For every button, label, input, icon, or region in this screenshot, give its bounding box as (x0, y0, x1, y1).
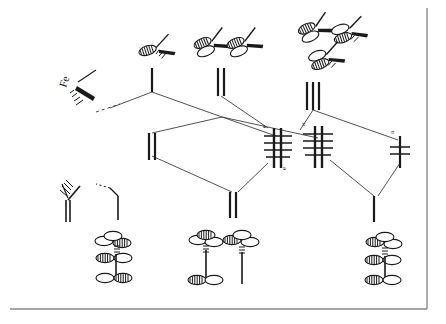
mo-diagram-svg: e e a a Fe (0, 0, 446, 324)
orbital-cartoon-top-left (136, 34, 176, 66)
level-left-lower-double[interactable] (149, 133, 155, 160)
metal-label-fe: Fe (56, 74, 71, 88)
orbital-cartoon-top-mid-a (192, 27, 232, 60)
fragment-metal-fe: Fe (56, 70, 96, 105)
orbital-cartoon-top-mid-b (225, 27, 265, 60)
correlation-lines (110, 92, 400, 196)
level-mid-upper-double[interactable] (218, 68, 224, 96)
orbital-cartoon-bottom-left (95, 231, 132, 282)
level-far-right-occupied[interactable]: a (388, 130, 410, 168)
electron-pairs-center-left (264, 136, 292, 157)
orbital-cartoon-top-right-a (296, 12, 336, 46)
orbital-cartoon-top-right-b (330, 16, 369, 47)
orbital-cartoon-bottom-mid-b (223, 230, 259, 284)
fragment-ligand-left (60, 180, 80, 222)
level-bottom-mid-double[interactable] (230, 192, 236, 218)
fragment-ligand-right (96, 184, 118, 220)
orbital-cartoon-bottom-mid-a (188, 230, 223, 284)
mo-diagram-canvas: e e a a Fe (0, 0, 446, 324)
level-label-e-left-upper: e (260, 125, 268, 128)
level-label-a-right: a (388, 130, 396, 134)
electron-pairs-center-right (303, 134, 333, 155)
level-label-e-left-lower: e (280, 167, 288, 170)
orbital-cartoon-top-right-c (307, 41, 346, 73)
level-label-a-middle: a (299, 122, 307, 126)
level-right-upper-triple[interactable] (307, 82, 319, 110)
level-center-right-occupied[interactable]: a (299, 122, 333, 168)
page-border (10, 8, 427, 309)
orbital-cartoon-bottom-right (365, 232, 402, 284)
